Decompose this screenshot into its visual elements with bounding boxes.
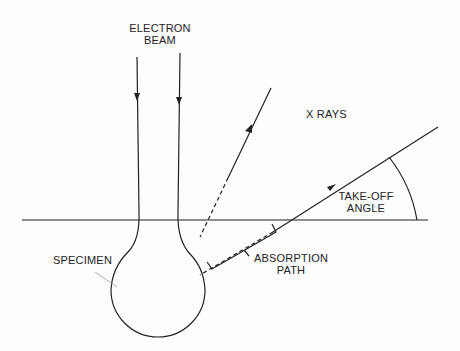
electron-beam-label-line1: ELECTRON (128, 22, 192, 34)
specimen-outline (111, 53, 205, 337)
absorption-path-label: ABSORPTION PATH (251, 252, 331, 276)
specimen-label: SPECIMEN (53, 254, 113, 266)
absorption-label-line1: ABSORPTION (251, 252, 331, 264)
xray-line-takeoff (273, 127, 438, 232)
xray-takeoff-diagram: ELECTRON BEAM X RAYS TAKE-OFF ANGLE SPEC… (0, 0, 460, 351)
electron-beam-label-line2: BEAM (128, 34, 192, 46)
x-rays-label: X RAYS (306, 108, 356, 120)
beam-arrow-left-icon (134, 93, 140, 101)
absorption-label-line2: PATH (251, 264, 331, 276)
xray-line-upper (228, 88, 271, 178)
xray-line-upper-dashed (200, 178, 228, 237)
electron-beam-label: ELECTRON BEAM (128, 22, 192, 46)
take-off-label-line2: ANGLE (331, 202, 401, 214)
take-off-angle-label: TAKE-OFF ANGLE (331, 190, 401, 214)
beam-arrow-right-icon (176, 97, 182, 105)
take-off-label-line1: TAKE-OFF (331, 190, 401, 202)
diagram-canvas (0, 0, 460, 351)
xray-arrow-upper-icon (245, 124, 252, 133)
